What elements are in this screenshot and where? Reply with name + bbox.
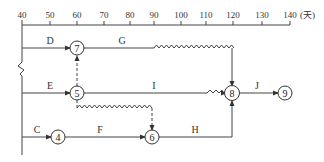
node-4: 4 xyxy=(51,130,65,144)
svg-text:7: 7 xyxy=(75,43,80,54)
network-diagram: 40 50 60 70 80 90 100 110 120 130 140 (天… xyxy=(0,0,324,162)
tick-label: 140 xyxy=(283,10,297,20)
svg-text:8: 8 xyxy=(230,88,235,99)
activity-label-C: C xyxy=(34,124,41,135)
time-axis: 40 50 60 70 80 90 100 110 120 130 140 (天… xyxy=(18,10,316,25)
tick-label: 50 xyxy=(46,10,56,20)
activity-I: I xyxy=(84,80,226,93)
activity-label-H: H xyxy=(191,124,198,135)
node-6: 6 xyxy=(145,130,159,144)
activity-label-J: J xyxy=(255,80,259,91)
svg-text:4: 4 xyxy=(56,132,61,143)
tick-label: 40 xyxy=(18,10,28,20)
activity-G: G xyxy=(84,35,234,86)
tick-label: 130 xyxy=(255,10,269,20)
node-9: 9 xyxy=(278,86,292,100)
activity-C: C xyxy=(22,124,51,137)
tick-label: 80 xyxy=(126,10,136,20)
svg-text:6: 6 xyxy=(150,132,155,143)
activity-E: E xyxy=(22,80,70,93)
svg-text:5: 5 xyxy=(75,88,80,99)
activity-F: F xyxy=(65,124,145,137)
tick-label: 110 xyxy=(199,10,213,20)
svg-text:9: 9 xyxy=(283,88,288,99)
activity-label-E: E xyxy=(47,80,53,91)
tick-label: 60 xyxy=(73,10,83,20)
activity-J: J xyxy=(240,80,278,93)
tick-label: 90 xyxy=(150,10,160,20)
axis-unit: (天) xyxy=(300,10,315,20)
activity-D: D xyxy=(22,35,70,48)
activity-label-D: D xyxy=(46,35,53,46)
activity-label-G: G xyxy=(118,35,125,46)
node-8: 8 xyxy=(225,86,240,101)
activity-label-F: F xyxy=(97,124,103,135)
node-5: 5 xyxy=(70,86,84,100)
dummy-5-6 xyxy=(77,100,152,130)
activity-H: H xyxy=(159,101,232,137)
tick-label: 100 xyxy=(174,10,188,20)
tick-label: 70 xyxy=(100,10,110,20)
node-7: 7 xyxy=(70,41,84,55)
activity-label-I: I xyxy=(152,80,155,91)
start-vertical-line xyxy=(18,25,24,155)
tick-label: 120 xyxy=(226,10,240,20)
